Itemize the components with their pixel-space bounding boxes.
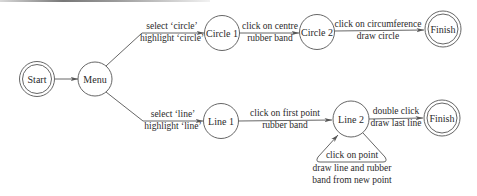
node-label: Circle 2	[301, 27, 333, 38]
edge-event-label: click on centre	[242, 21, 298, 31]
node-label: Line 2	[338, 114, 364, 125]
edge-menu-circle1: select ‘circle’ highlight ‘circle’	[106, 21, 204, 66]
edge-action-label: draw circle	[357, 31, 399, 41]
edge-circle2-finish: click on circumference draw circle	[334, 19, 424, 41]
node-label: Circle 1	[206, 28, 238, 39]
edge-action-label: draw line and rubber	[313, 163, 393, 173]
edge-action-label: rubber band	[262, 120, 308, 130]
node-start: Start	[20, 62, 55, 97]
node-finish-bottom: Finish	[424, 100, 460, 136]
node-line1: Line 1	[204, 104, 239, 139]
node-menu: Menu	[78, 62, 112, 96]
node-finish-top: Finish	[425, 11, 461, 47]
edge-event-label: double click	[373, 106, 420, 116]
edge-action-label: highlight ‘line’	[144, 121, 201, 131]
node-label: Menu	[83, 74, 106, 85]
node-label: Finish	[429, 113, 454, 124]
edge-event-label: select ‘line’	[151, 109, 196, 119]
node-label: Line 1	[208, 116, 234, 127]
edge-action-label: rubber band	[247, 33, 293, 43]
edge-line2-finish: double click draw last line	[369, 106, 423, 128]
edge-action-label: highlight ‘circle’	[140, 33, 204, 43]
node-label: Finish	[430, 24, 455, 35]
state-diagram: select ‘circle’ highlight ‘circle’ click…	[0, 0, 477, 196]
edge-line2-self-loop: click on point draw line and rubber band…	[312, 133, 392, 185]
node-line2: Line 2	[333, 101, 369, 137]
node-circle2: Circle 2	[300, 15, 335, 50]
node-circle1: Circle 1	[205, 16, 240, 51]
edge-menu-line1: select ‘line’ highlight ‘line’	[106, 92, 203, 131]
edge-event-label: select ‘circle’	[146, 21, 197, 31]
edge-event-label: click on point	[326, 150, 379, 160]
node-label: Start	[28, 74, 47, 85]
edge-action-label: draw last line	[370, 118, 421, 128]
edge-action-label-cont: band from new point	[312, 175, 392, 185]
edge-circle1-circle2: click on centre rubber band	[239, 21, 299, 43]
edge-event-label: click on circumference	[334, 19, 421, 29]
edge-event-label: click on first point	[250, 108, 320, 118]
edge-line1-line2: click on first point rubber band	[238, 108, 332, 130]
